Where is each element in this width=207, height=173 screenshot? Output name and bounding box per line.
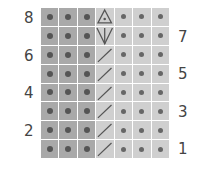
purl-dot-icon [121, 71, 126, 76]
chart-cell [96, 140, 113, 158]
purl-dot-icon [158, 33, 163, 38]
chart-cell [41, 102, 58, 120]
chart-cell [115, 102, 132, 120]
chart-cell [115, 84, 132, 102]
chart-cell [133, 121, 150, 139]
purl-dot-icon [65, 52, 71, 58]
chart-cell [41, 65, 58, 83]
purl-dot-icon [65, 127, 71, 133]
chart-cell [115, 65, 132, 83]
purl-dot-icon [158, 109, 163, 114]
chart-cell [133, 8, 150, 26]
chart-cell [59, 102, 76, 120]
chart-cell [78, 84, 95, 102]
chart-cell [41, 140, 58, 158]
chart-cell [115, 27, 132, 45]
purl-dot-icon [139, 147, 144, 152]
purl-dot-icon [158, 52, 163, 57]
chart-cell [115, 140, 132, 158]
purl-dot-icon [121, 52, 126, 57]
chart-cell [115, 121, 132, 139]
purl-dot-icon [47, 52, 53, 58]
knitting-chart-grid [41, 8, 169, 158]
chart-cell [152, 46, 169, 64]
purl-dot-icon [47, 71, 53, 77]
chart-cell [133, 65, 150, 83]
row-label-1: 1 [178, 142, 188, 157]
chart-cell [133, 140, 150, 158]
arrow-down-icon [96, 27, 113, 45]
purl-dot-icon [139, 90, 144, 95]
purl-dot-icon [139, 52, 144, 57]
chart-cell [96, 46, 113, 64]
chart-cell [41, 46, 58, 64]
chart-cell [59, 65, 76, 83]
chart-cell [78, 65, 95, 83]
slash-icon [96, 65, 113, 83]
purl-dot-icon [139, 109, 144, 114]
purl-dot-icon [84, 108, 90, 114]
slash-icon [96, 121, 113, 139]
chart-cell [59, 8, 76, 26]
chart-cell [133, 46, 150, 64]
chart-cell [59, 140, 76, 158]
chart-cell [152, 102, 169, 120]
purl-dot-icon [47, 14, 53, 20]
purl-dot-icon [65, 33, 71, 39]
purl-dot-icon [139, 33, 144, 38]
chart-cell [152, 121, 169, 139]
purl-dot-icon [158, 147, 163, 152]
row-label-2: 2 [24, 124, 34, 139]
purl-dot-icon [158, 71, 163, 76]
chart-cell [78, 121, 95, 139]
chart-cell [133, 84, 150, 102]
chart-cell [78, 8, 95, 26]
purl-dot-icon [65, 14, 71, 20]
purl-dot-icon [47, 146, 53, 152]
purl-dot-icon [121, 14, 126, 19]
purl-dot-icon [47, 108, 53, 114]
chart-cell [59, 121, 76, 139]
slash-icon [96, 140, 113, 158]
purl-dot-icon [47, 89, 53, 95]
chart-cell [78, 102, 95, 120]
chart-cell [96, 27, 113, 45]
purl-dot-icon [121, 109, 126, 114]
row-label-7: 7 [178, 30, 188, 45]
triangle-dot-icon [96, 8, 113, 26]
chart-cell [96, 84, 113, 102]
chart-cell [152, 84, 169, 102]
purl-dot-icon [121, 128, 126, 133]
purl-dot-icon [139, 14, 144, 19]
purl-dot-icon [158, 90, 163, 95]
purl-dot-icon [65, 71, 71, 77]
row-label-4: 4 [24, 86, 34, 101]
row-label-8: 8 [24, 11, 34, 26]
purl-dot-icon [47, 127, 53, 133]
chart-cell [133, 27, 150, 45]
chart-cell [78, 46, 95, 64]
purl-dot-icon [65, 108, 71, 114]
chart-cell [41, 121, 58, 139]
chart-cell [41, 8, 58, 26]
purl-dot-icon [121, 33, 126, 38]
chart-cell [133, 102, 150, 120]
chart-cell [59, 84, 76, 102]
purl-dot-icon [84, 33, 90, 39]
row-label-6: 6 [24, 49, 34, 64]
purl-dot-icon [84, 14, 90, 20]
slash-icon [96, 46, 113, 64]
chart-cell [115, 8, 132, 26]
chart-cell [152, 65, 169, 83]
chart-cell [96, 65, 113, 83]
chart-cell [96, 102, 113, 120]
purl-dot-icon [65, 146, 71, 152]
chart-cell [96, 121, 113, 139]
purl-dot-icon [47, 33, 53, 39]
chart-cell [96, 8, 113, 26]
chart-cell [152, 8, 169, 26]
purl-dot-icon [139, 128, 144, 133]
purl-dot-icon [84, 71, 90, 77]
purl-dot-icon [84, 89, 90, 95]
chart-cell [78, 140, 95, 158]
